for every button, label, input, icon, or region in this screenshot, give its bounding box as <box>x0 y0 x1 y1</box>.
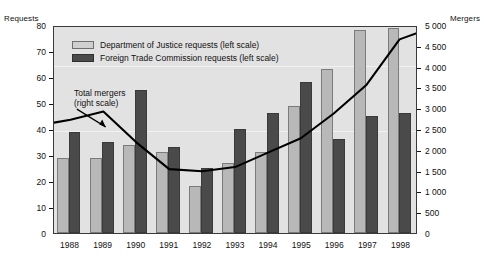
y-tick-mark-right <box>417 130 421 131</box>
legend-label-doj: Department of Justice requests (left sca… <box>100 40 259 50</box>
total-mergers-annotation: Total mergers (right scale) <box>74 89 126 108</box>
y-tick-label-right: 3 500 <box>425 83 459 93</box>
chart-figure: Requests Mergers 01020304050607080 05001… <box>0 0 484 280</box>
y-tick-label-left: 20 <box>16 177 46 187</box>
y-tick-mark-right <box>417 109 421 110</box>
y-tick-label-right: 1 500 <box>425 167 459 177</box>
y-tick-label-left: 70 <box>16 47 46 57</box>
y-tick-label-right: 500 <box>425 208 459 218</box>
y-tick-label-right: 2 000 <box>425 146 459 156</box>
y-tick-mark-right <box>417 151 421 152</box>
chart-legend: Department of Justice requests (left sca… <box>72 39 279 65</box>
y-tick-label-right: 4 500 <box>425 42 459 52</box>
y-tick-mark-right <box>417 172 421 173</box>
y-tick-label-left: 10 <box>16 203 46 213</box>
y-tick-label-left: 30 <box>16 151 46 161</box>
annotation-line-2: (right scale) <box>74 99 126 109</box>
y-tick-mark-right <box>417 47 421 48</box>
y-tick-label-left: 80 <box>16 21 46 31</box>
y-tick-mark-right <box>417 88 421 89</box>
y-tick-label-left: 40 <box>16 125 46 135</box>
legend-swatch-doj <box>72 41 94 49</box>
x-tick-label: 1998 <box>380 240 420 250</box>
y-tick-label-right: 0 <box>425 229 459 239</box>
legend-label-ftc: Foreign Trade Commission requests (left … <box>100 53 279 63</box>
y-tick-label-left: 60 <box>16 73 46 83</box>
legend-swatch-ftc <box>72 54 94 62</box>
y-tick-mark-right <box>417 192 421 193</box>
y-tick-mark-right <box>417 68 421 69</box>
legend-item-ftc: Foreign Trade Commission requests (left … <box>72 52 279 63</box>
y-tick-mark-right <box>417 213 421 214</box>
y-tick-label-right: 2 500 <box>425 125 459 135</box>
plot-area: Department of Justice requests (left sca… <box>53 26 417 234</box>
y-tick-label-right: 5 000 <box>425 21 459 31</box>
y-tick-label-right: 3 000 <box>425 104 459 114</box>
y-tick-label-right: 1 000 <box>425 187 459 197</box>
y-tick-label-left: 0 <box>16 229 46 239</box>
y-tick-label-left: 50 <box>16 99 46 109</box>
legend-item-doj: Department of Justice requests (left sca… <box>72 39 279 50</box>
y-tick-label-right: 4 000 <box>425 63 459 73</box>
